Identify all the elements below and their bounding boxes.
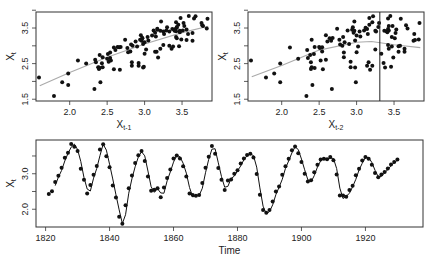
data-point <box>98 53 102 57</box>
data-point <box>390 35 394 39</box>
data-point <box>353 38 357 42</box>
y-tick-label: 1.5 <box>20 93 30 106</box>
x-tick-label: 3.0 <box>138 107 151 117</box>
data-point <box>370 64 374 68</box>
data-point <box>158 47 162 51</box>
data-point <box>66 72 70 76</box>
data-point <box>391 56 395 60</box>
y-tick-label: 2.5 <box>232 57 242 70</box>
data-point <box>386 43 390 47</box>
data-point <box>315 163 319 167</box>
data-point <box>137 64 141 68</box>
data-point <box>358 30 362 34</box>
data-point <box>125 46 129 50</box>
data-point <box>123 38 127 42</box>
data-point <box>182 24 186 28</box>
data-point <box>296 57 300 61</box>
data-point <box>335 27 339 31</box>
data-point <box>111 183 115 187</box>
data-point <box>296 151 300 155</box>
data-point <box>330 87 334 91</box>
data-point <box>386 16 390 20</box>
data-point <box>342 51 346 55</box>
data-point <box>287 157 291 161</box>
data-point <box>156 56 160 60</box>
data-point <box>117 215 121 219</box>
data-point <box>235 168 239 172</box>
x-tick-label: 1820 <box>36 233 56 243</box>
y-axis-label: Xt <box>217 52 229 61</box>
data-point <box>118 68 122 72</box>
data-point <box>184 175 188 179</box>
data-point <box>167 30 171 34</box>
x-tick-label: 1860 <box>164 233 184 243</box>
data-point <box>412 32 416 36</box>
data-point <box>210 144 214 148</box>
data-point <box>150 33 154 37</box>
data-point <box>356 45 360 49</box>
data-point <box>97 67 101 71</box>
data-point <box>367 157 371 161</box>
data-point <box>135 45 139 49</box>
data-point <box>79 167 83 171</box>
data-point <box>338 42 342 46</box>
data-point <box>418 21 422 25</box>
data-point <box>382 61 386 65</box>
data-point <box>153 31 157 35</box>
data-point <box>313 45 317 49</box>
data-point <box>368 68 372 72</box>
data-point <box>267 208 271 212</box>
data-point <box>66 151 70 155</box>
data-point <box>403 47 407 51</box>
data-point <box>395 158 399 162</box>
data-point <box>162 32 166 36</box>
data-point <box>249 58 253 62</box>
data-point <box>69 142 73 146</box>
data-point <box>360 159 364 163</box>
data-point <box>60 166 64 170</box>
data-point <box>56 174 60 178</box>
data-point <box>304 94 308 98</box>
data-point <box>114 196 118 200</box>
lynx-figure: 2.02.53.03.51.52.53.5Xt-1Xt 2.02.53.03.5… <box>0 0 435 259</box>
time-series-panel: 1820184018601880190019202.03.0TimeXt <box>5 140 423 256</box>
data-point <box>309 178 313 182</box>
data-point <box>366 32 370 36</box>
data-point <box>53 180 57 184</box>
data-point <box>117 45 121 49</box>
data-point <box>305 48 309 52</box>
data-point <box>367 16 371 20</box>
data-point <box>206 17 210 21</box>
data-point <box>171 45 175 49</box>
data-point <box>367 60 371 64</box>
data-point <box>386 166 390 170</box>
data-point <box>321 67 325 71</box>
data-point <box>277 185 281 189</box>
data-point <box>354 80 358 84</box>
data-point <box>168 167 172 171</box>
data-point <box>328 155 332 159</box>
data-point <box>271 199 275 203</box>
data-point <box>130 60 134 64</box>
data-point <box>108 51 112 55</box>
data-point <box>365 27 369 31</box>
data-point <box>352 31 356 35</box>
data-point <box>130 64 134 68</box>
x-tick-label: 3.5 <box>388 107 401 117</box>
data-point <box>191 39 195 43</box>
data-point <box>248 152 252 156</box>
data-point <box>92 173 96 177</box>
data-point <box>37 76 41 80</box>
data-point <box>98 148 102 152</box>
data-point <box>165 176 169 180</box>
data-point <box>47 192 51 196</box>
data-point <box>278 80 282 84</box>
lag2-scatter-panel: 2.02.53.03.51.52.53.5Xt-2Xt <box>217 10 424 131</box>
data-point <box>390 45 394 49</box>
data-point <box>88 183 92 187</box>
data-point <box>146 175 150 179</box>
data-point <box>320 50 324 54</box>
y-axis-label: Xt <box>5 179 17 188</box>
data-point <box>379 172 383 176</box>
x-axis-label: Time <box>219 245 241 256</box>
